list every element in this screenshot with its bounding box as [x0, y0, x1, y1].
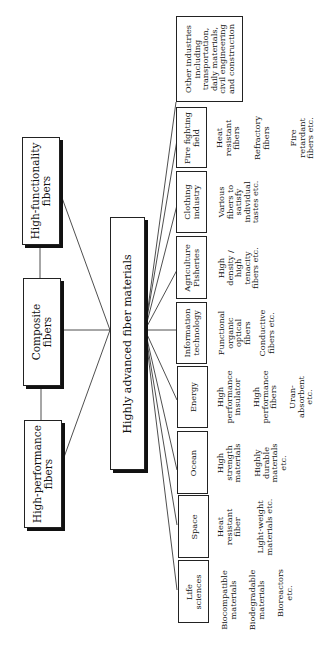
fiber-type-high-performance: High-performancefibers: [24, 420, 62, 528]
field-agriculture-fisheries: AgricultureFisheries: [176, 236, 207, 299]
field-label: Fisheries: [191, 248, 201, 286]
field-label: Space: [188, 514, 198, 539]
fiber-type-label: fibers: [42, 459, 54, 489]
example-group: Conductivefibers etc.: [256, 302, 278, 364]
example-group: Bioreactorsetc.: [274, 558, 296, 628]
example-text: etc.: [278, 455, 288, 470]
field-label: technology: [191, 310, 201, 356]
example-text: fibers etc.: [305, 117, 315, 159]
field-life-sciences: Lifesciences: [178, 560, 209, 623]
example-text: tastes etc.: [251, 181, 261, 224]
fiber-type-label: fibers: [41, 317, 53, 347]
example-group: Heatresistantfibers: [213, 107, 243, 168]
example-group: Biodegradablematerials: [246, 560, 268, 640]
example-text: etc.: [304, 389, 314, 404]
example-text: materials: [232, 443, 242, 482]
center-label: Highly advanced fiber materials: [122, 254, 134, 433]
example-text: etc.: [284, 585, 294, 600]
example-group: Highlydurablematerialsetc.: [250, 431, 290, 494]
example-group: Functionalorganicopticalfibers: [214, 302, 254, 364]
example-group: Highperformanceinsulator: [214, 366, 244, 428]
example-group: Uran-absorbentetc.: [286, 366, 316, 428]
center-node: Highly advanced fiber materials: [110, 217, 145, 470]
example-text: fibers: [242, 321, 252, 345]
example-group: Refractoryfibers: [250, 107, 274, 168]
example-group: Variousfibers tosatisfyindividualtastes …: [214, 171, 264, 233]
example-group: Biocompatiblematerials: [218, 560, 240, 640]
example-text: insulator: [232, 379, 242, 416]
example-group: Light-weightmaterials etc.: [254, 495, 276, 558]
field-other-industries: Other industries including transportatio…: [176, 16, 243, 102]
field-information-technology: Informationtechnology: [176, 302, 207, 364]
example-group: Highdensity /hightenacityfibers etc.: [214, 236, 264, 299]
field-label: and construction: [226, 24, 236, 94]
field-label: field: [191, 128, 201, 146]
field-label: Energy: [187, 382, 197, 412]
example-text: fibers etc.: [266, 312, 276, 354]
example-group: Highperformancefibers: [250, 366, 280, 428]
example-text: materials: [228, 581, 238, 620]
example-group: Highstrengthmaterials: [214, 431, 244, 494]
field-label: sciences: [193, 574, 203, 609]
example-text: fibers: [231, 126, 241, 150]
field-energy: Energy: [177, 366, 208, 428]
fiber-type-high-functionality: High-functionalityfibers: [22, 137, 60, 245]
field-clothing: Clothingindustry: [176, 171, 207, 233]
example-text: materials etc.: [264, 498, 274, 555]
example-text: materials: [256, 580, 266, 619]
field-label: Ocean: [187, 449, 197, 475]
example-text: fibers etc.: [251, 247, 261, 289]
field-label: industry: [191, 185, 201, 219]
field-ocean: Ocean: [177, 431, 208, 494]
fiber-type-composite: Compositefibers: [23, 278, 61, 386]
field-fire-fighting: Fire fightingfield: [176, 107, 207, 168]
example-group: Heatresistantfiber: [214, 495, 244, 558]
fiber-materials-diagram: High-functionalityfibers Compositefibers…: [0, 0, 335, 663]
example-text: fibers: [261, 126, 271, 150]
fiber-type-label: fibers: [40, 176, 52, 206]
example-text: fiber: [232, 517, 242, 536]
field-space: Space: [178, 495, 209, 558]
example-group: Fireretardantfibers etc.: [287, 107, 317, 168]
example-text: fibers: [268, 385, 278, 409]
